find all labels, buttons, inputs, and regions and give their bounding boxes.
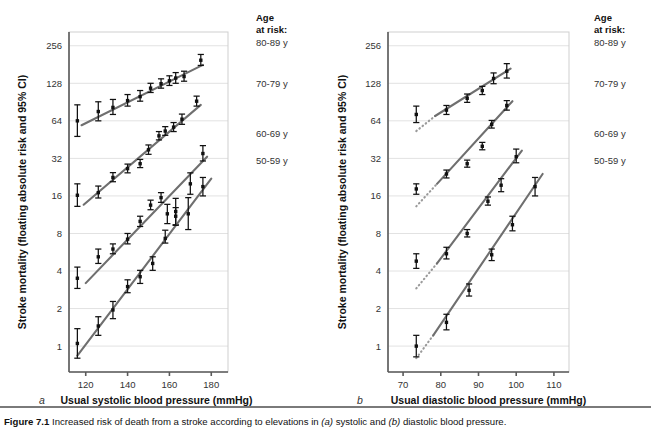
legend-item-50-59-y: 50-59 y: [594, 155, 626, 166]
data-point: [159, 82, 162, 85]
data-point: [149, 86, 152, 89]
data-point: [97, 110, 100, 113]
y-tick-label: 32: [51, 153, 62, 164]
data-point: [199, 59, 202, 62]
caption-text-mid: systolic and: [333, 416, 388, 427]
data-point: [187, 212, 190, 215]
data-point: [445, 321, 448, 324]
data-point: [415, 113, 418, 116]
data-point: [511, 223, 514, 226]
chart-svg-a: 1248163264128256120140160180Usual systol…: [0, 0, 330, 400]
data-point: [445, 252, 448, 255]
age-at-risk-legend: Ageat risk:80-89 y70-79 y60-69 y50-59 y: [594, 12, 626, 166]
legend-item-60-69-y: 60-69 y: [256, 128, 288, 139]
legend-item-70-79-y: 70-79 y: [594, 78, 626, 89]
data-point: [138, 220, 141, 223]
figure-root: 1248163264128256120140160180Usual systol…: [0, 0, 651, 439]
data-point: [465, 97, 468, 100]
y-tick-label: 4: [57, 265, 62, 276]
panel-letter: b: [357, 394, 363, 406]
caption-divider: [0, 406, 651, 408]
age-at-risk-legend: Ageat risk:80-89 y70-79 y60-69 y50-59 y: [256, 12, 288, 166]
figure-caption: Figure 7.1 Increased risk of death from …: [4, 415, 647, 428]
data-point: [157, 134, 160, 137]
data-point: [164, 237, 167, 240]
data-point: [76, 277, 79, 280]
data-point: [159, 196, 162, 199]
caption-tag-a: (a): [321, 416, 333, 427]
trend-line: [82, 65, 203, 125]
y-tick-label: 32: [370, 153, 381, 164]
caption-tag-b: (b): [389, 416, 401, 427]
trend-line: [77, 179, 211, 356]
data-point: [166, 212, 169, 215]
x-tick-label: 160: [161, 379, 177, 390]
data-point: [445, 172, 448, 175]
data-point: [499, 184, 502, 187]
data-point: [111, 308, 114, 311]
trend-line-extrapolated: [416, 116, 435, 131]
x-tick-label: 80: [436, 379, 447, 390]
data-point: [481, 145, 484, 148]
y-tick-label: 1: [57, 341, 62, 352]
series-60-69-y: [413, 149, 522, 288]
data-point: [505, 104, 508, 107]
series-50-59-y: [74, 177, 211, 358]
legend-title-line2: at risk:: [594, 24, 625, 35]
data-point: [111, 247, 114, 250]
data-point: [465, 232, 468, 235]
data-point: [486, 200, 489, 203]
data-point: [111, 176, 114, 179]
x-tick-label: 140: [120, 379, 136, 390]
y-tick-label: 128: [365, 78, 381, 89]
data-point: [415, 344, 418, 347]
x-axis-title: Usual diastolic blood pressure (mmHg): [391, 394, 586, 406]
data-point: [76, 119, 79, 122]
y-tick-label: 16: [51, 190, 62, 201]
legend-title-line1: Age: [594, 12, 612, 23]
data-point: [138, 162, 141, 165]
x-tick-label: 90: [473, 379, 484, 390]
trend-line-extrapolated: [416, 184, 437, 207]
caption-text-post: diastolic blood pressure.: [400, 416, 506, 427]
data-point: [195, 99, 198, 102]
data-point: [189, 182, 192, 185]
y-tick-label: 8: [376, 228, 381, 239]
data-point: [201, 152, 204, 155]
y-tick-label: 4: [376, 265, 381, 276]
x-tick-label: 100: [508, 379, 524, 390]
y-tick-label: 2: [376, 303, 381, 314]
data-point: [126, 167, 129, 170]
chart-panel-a: 1248163264128256120140160180Usual systol…: [0, 0, 330, 400]
legend-title-line1: Age: [256, 12, 274, 23]
chart-panel-b: 1248163264128256708090100110Usual diasto…: [320, 0, 651, 400]
data-point: [201, 185, 204, 188]
y-tick-label: 64: [370, 115, 381, 126]
data-point: [151, 262, 154, 265]
panel-letter: a: [39, 394, 45, 406]
y-tick-label: 2: [57, 303, 62, 314]
legend-item-80-89-y: 80-89 y: [594, 37, 626, 48]
y-tick-label: 128: [46, 78, 62, 89]
data-point: [492, 77, 495, 80]
data-point: [515, 155, 518, 158]
y-tick-label: 256: [46, 40, 62, 51]
y-axis-title: Stroke mortality (floating absolute risk…: [16, 75, 28, 329]
y-tick-label: 8: [57, 228, 62, 239]
data-point: [76, 194, 79, 197]
data-point: [174, 76, 177, 79]
trend-line: [437, 151, 522, 264]
data-point: [97, 191, 100, 194]
series-70-79-y: [413, 101, 512, 207]
x-tick-label: 110: [546, 379, 561, 390]
y-tick-label: 1: [376, 341, 381, 352]
data-point: [126, 237, 129, 240]
series-50-59-y: [413, 174, 542, 358]
data-point: [138, 95, 141, 98]
x-tick-label: 70: [398, 379, 409, 390]
data-point: [415, 187, 418, 190]
data-point: [490, 253, 493, 256]
data-point: [97, 255, 100, 258]
figure-number: Figure 7.1: [4, 416, 49, 427]
trend-line-extrapolated: [416, 335, 433, 358]
